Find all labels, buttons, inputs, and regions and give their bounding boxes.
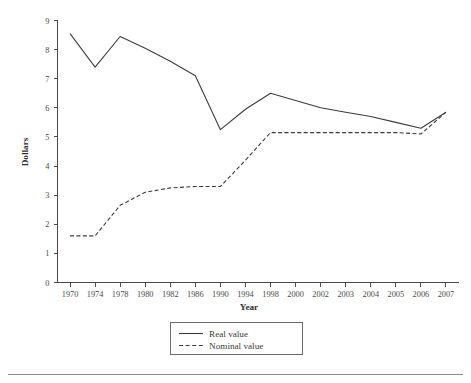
x-tick-label: 2005 xyxy=(388,290,405,299)
series-line-real-value xyxy=(70,34,446,130)
y-tick-label: 2 xyxy=(45,220,49,229)
line-chart-canvas: 0123456789 19701974197819801982198619901… xyxy=(0,0,471,383)
y-tick-label: 8 xyxy=(45,46,49,55)
x-tick-label: 2006 xyxy=(413,290,430,299)
x-tick-label: 1990 xyxy=(212,290,229,299)
x-axis-label: Year xyxy=(240,302,258,312)
y-axis-ticks xyxy=(54,21,58,283)
legend-label-nominal-value: Nominal value xyxy=(209,341,263,351)
x-tick-label: 2002 xyxy=(312,290,329,299)
x-tick-label: 1974 xyxy=(87,290,104,299)
x-tick-label: 2007 xyxy=(438,290,455,299)
x-axis-tick-labels: 1970197419781980198219861990199419982000… xyxy=(62,290,455,299)
x-tick-label: 1978 xyxy=(112,290,129,299)
series-line-nominal-value xyxy=(70,112,446,236)
axes xyxy=(58,21,459,283)
x-tick-label: 2000 xyxy=(287,290,304,299)
chart-legend: Real value Nominal value xyxy=(171,323,303,355)
y-tick-label: 4 xyxy=(45,162,50,171)
y-tick-label: 3 xyxy=(45,191,49,200)
x-tick-label: 1970 xyxy=(62,290,79,299)
y-axis-label: Dollars xyxy=(20,137,30,166)
x-tick-label: 1982 xyxy=(162,290,179,299)
x-tick-label: 2003 xyxy=(337,290,354,299)
x-tick-label: 1998 xyxy=(262,290,279,299)
y-axis-tick-labels: 0123456789 xyxy=(45,17,50,288)
x-tick-label: 1994 xyxy=(237,290,254,299)
x-tick-label: 2004 xyxy=(362,290,379,299)
x-tick-label: 1980 xyxy=(137,290,154,299)
y-tick-label: 5 xyxy=(45,133,49,142)
x-axis-ticks xyxy=(70,283,446,287)
legend-label-real-value: Real value xyxy=(209,329,248,339)
y-tick-label: 6 xyxy=(45,104,49,113)
chart-figure: 0123456789 19701974197819801982198619901… xyxy=(0,0,471,383)
x-tick-label: 1986 xyxy=(187,290,204,299)
y-tick-label: 7 xyxy=(45,75,49,84)
y-tick-label: 1 xyxy=(45,249,49,258)
y-tick-label: 0 xyxy=(45,279,49,288)
data-series-group xyxy=(70,34,446,236)
y-tick-label: 9 xyxy=(45,17,49,26)
